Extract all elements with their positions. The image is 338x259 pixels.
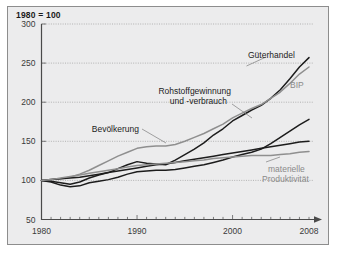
- y-major-ticks: [42, 24, 47, 220]
- series-label-bip: BIP: [290, 80, 304, 90]
- series-label-rohstoffgewinnung-line1: Rohstoffgewinnung: [158, 86, 231, 96]
- x-tick-label: 2008: [300, 226, 319, 236]
- x-tick-label: 1990: [128, 226, 147, 236]
- chart-svg: 50100150200250300 1980199020002008 1980 …: [0, 0, 338, 259]
- chart-figure: 50100150200250300 1980199020002008 1980 …: [0, 0, 338, 259]
- x-tick-label: 2000: [223, 226, 242, 236]
- chart-title: 1980 = 100: [16, 10, 61, 20]
- y-tick-label: 200: [21, 97, 35, 107]
- series-label-gueterhandel: Güterhandel: [248, 50, 295, 60]
- y-tick-label: 250: [21, 58, 35, 68]
- y-tick-label: 100: [21, 175, 35, 185]
- series-label-bevoelkerung: Bevölkerung: [92, 124, 140, 134]
- y-tick-label: 150: [21, 136, 35, 146]
- series-label-materielle-produktivitaet-line1: materielle: [268, 164, 305, 174]
- series-label-rohstoffgewinnung-line2: und -verbrauch: [170, 96, 227, 106]
- y-tick-label: 50: [26, 215, 36, 225]
- series-label-materielle-produktivitaet-line2: Produktivität: [262, 174, 309, 184]
- y-tick-labels: 50100150200250300: [21, 19, 35, 225]
- x-tick-label: 1980: [32, 226, 51, 236]
- y-tick-label: 300: [21, 19, 35, 29]
- x-tick-labels: 1980199020002008: [32, 226, 319, 236]
- x-minor-ticks: [42, 215, 310, 220]
- x-axis-arrow-icon: [314, 216, 322, 223]
